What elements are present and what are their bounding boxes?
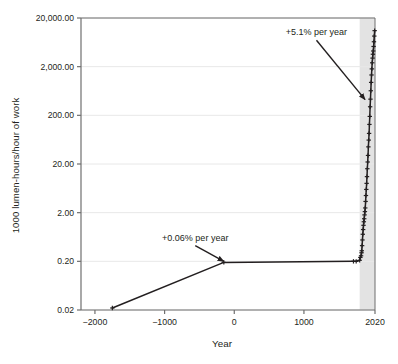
y-tick-label-5: 2,000.00 [0,62,74,72]
annotation-arrow-growth-ancient [195,246,224,262]
chart-figure: 1000 lumen-hours/hour of work Year 0.020… [0,0,398,364]
x-tick-label-3: 1000 [294,317,314,327]
annotation-label-growth-ancient: +0.06% per year [162,233,228,243]
y-tick-label-6: 20,000.00 [0,13,74,23]
annotation-label-growth-modern: +5.1% per year [286,27,347,37]
x-axis-label: Year [212,338,232,349]
x-tick-label-4: 2020 [365,317,385,327]
y-tick-label-2: 2.00 [0,208,74,218]
y-tick-label-3: 20.00 [0,159,74,169]
y-tick-label-0: 0.02 [0,305,74,315]
data-line-0 [112,31,374,308]
y-tick-label-4: 200.00 [0,110,74,120]
annotation-arrow-growth-modern [316,40,365,99]
x-tick-label-2: 0 [232,317,237,327]
x-tick-label-1: −1000 [152,317,177,327]
y-tick-label-1: 0.20 [0,256,74,266]
x-tick-label-0: −2000 [83,317,108,327]
x-axis-label-wrapper: Year [0,338,398,349]
